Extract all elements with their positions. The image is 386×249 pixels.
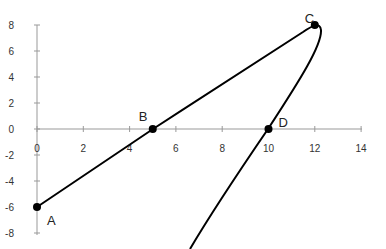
point-a-marker	[33, 203, 41, 211]
point-a-label: A	[47, 213, 56, 228]
point-b-label: B	[139, 109, 148, 124]
x-ticks: 02468101214	[34, 126, 367, 154]
y-tick-label: 6	[8, 46, 14, 57]
x-tick-label: 14	[356, 143, 368, 154]
x-tick-label: 2	[81, 143, 87, 154]
y-tick-label: 2	[8, 98, 14, 109]
chart-canvas: 02468101214 -8-6-4-202468 ABCD	[0, 0, 386, 249]
y-tick-label: 4	[8, 72, 14, 83]
point-d-marker	[265, 125, 273, 133]
y-tick-label: -6	[5, 202, 14, 213]
x-tick-label: 0	[34, 143, 40, 154]
labeled-points: ABCD	[33, 11, 319, 228]
y-tick-label: -8	[5, 228, 14, 239]
x-tick-label: 10	[263, 143, 275, 154]
point-d-label: D	[279, 115, 288, 130]
x-tick-label: 8	[219, 143, 225, 154]
y-tick-label: -4	[5, 176, 14, 187]
x-tick-label: 12	[309, 143, 321, 154]
point-c-label: C	[305, 11, 314, 26]
point-b-marker	[149, 125, 157, 133]
curve-line	[37, 25, 321, 249]
y-tick-label: -2	[5, 150, 14, 161]
x-tick-label: 6	[173, 143, 179, 154]
y-tick-label: 8	[8, 20, 14, 31]
y-tick-label: 0	[8, 124, 14, 135]
